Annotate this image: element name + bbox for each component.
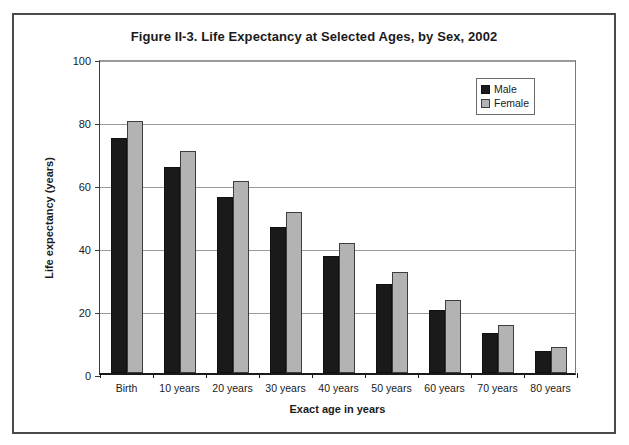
legend-swatch-female-icon xyxy=(481,99,490,108)
legend-label: Male xyxy=(494,83,517,96)
x-tick-mark xyxy=(100,373,101,378)
bar-female xyxy=(233,181,249,373)
bar-group xyxy=(259,61,312,373)
x-tick-mark xyxy=(524,373,525,378)
x-tick-mark xyxy=(365,373,366,378)
bar-group xyxy=(312,61,365,373)
legend-swatch-male-icon xyxy=(481,85,490,94)
bar-group xyxy=(365,61,418,373)
x-tick-label: 20 years xyxy=(212,382,252,394)
x-axis-title: Exact age in years xyxy=(99,403,576,415)
x-tick-label: 40 years xyxy=(318,382,358,394)
legend-item: Male xyxy=(481,83,529,96)
bar-group xyxy=(153,61,206,373)
bar-female xyxy=(392,272,408,373)
x-tick-mark xyxy=(577,373,578,378)
figure-frame: Figure II-3. Life Expectancy at Selected… xyxy=(12,13,616,434)
y-tick-label: 60 xyxy=(79,181,91,193)
bar-male xyxy=(376,284,392,373)
chart-legend: MaleFemale xyxy=(476,78,535,115)
y-tick-label: 80 xyxy=(79,118,91,130)
bar-male xyxy=(111,138,127,373)
x-tick-mark xyxy=(259,373,260,378)
legend-label: Female xyxy=(494,97,529,110)
bar-female xyxy=(286,212,302,373)
bar-female xyxy=(180,151,196,373)
x-tick-label: Birth xyxy=(116,382,138,394)
chart-title: Figure II-3. Life Expectancy at Selected… xyxy=(14,29,614,44)
y-tick-label: 20 xyxy=(79,307,91,319)
y-axis-title: Life expectancy (years) xyxy=(40,60,58,375)
bar-group xyxy=(206,61,259,373)
x-tick-label: 50 years xyxy=(371,382,411,394)
x-tick-label: 30 years xyxy=(265,382,305,394)
bar-male xyxy=(429,310,445,373)
y-tick-label: 0 xyxy=(85,370,91,382)
bar-female xyxy=(339,243,355,373)
bar-male xyxy=(217,197,233,373)
bar-male xyxy=(164,167,180,373)
x-tick-label: 10 years xyxy=(159,382,199,394)
x-tick-mark xyxy=(206,373,207,378)
bar-female xyxy=(551,347,567,373)
x-tick-mark xyxy=(312,373,313,378)
y-tick-label: 100 xyxy=(73,55,91,67)
bar-group xyxy=(418,61,471,373)
x-tick-label: 60 years xyxy=(424,382,464,394)
bar-group xyxy=(100,61,153,373)
x-tick-mark xyxy=(153,373,154,378)
x-tick-mark xyxy=(471,373,472,378)
x-tick-label: 70 years xyxy=(477,382,517,394)
bar-female xyxy=(498,325,514,373)
bar-male xyxy=(482,333,498,373)
y-tick-label: 40 xyxy=(79,244,91,256)
bar-male xyxy=(270,227,286,373)
legend-item: Female xyxy=(481,97,529,110)
x-tick-mark xyxy=(418,373,419,378)
bar-female xyxy=(445,300,461,373)
bar-female xyxy=(127,121,143,373)
x-tick-label: 80 years xyxy=(530,382,570,394)
y-axis-title-label: Life expectancy (years) xyxy=(43,157,55,279)
bar-male xyxy=(323,256,339,373)
bar-male xyxy=(535,351,551,373)
